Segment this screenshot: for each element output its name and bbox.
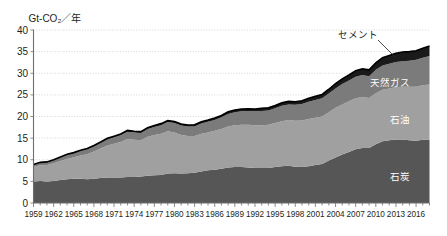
x-tick-label: 2004 [326,210,345,219]
y-axis-title: Gt-CO₂／年 [29,12,82,24]
x-tick-label: 1977 [145,210,164,219]
x-tick-label: 1971 [105,210,124,219]
x-tick-label: 1983 [185,210,204,219]
y-tick-label: 20 [17,111,29,122]
series-label-石炭: 石炭 [390,171,410,182]
series-label-セメント: セメント [338,29,378,40]
x-tick-label: 2013 [387,210,406,219]
x-tick-label: 2001 [306,210,325,219]
y-tick-label: 40 [17,25,29,36]
y-tick-label: 30 [17,68,29,79]
x-tick-label: 1968 [85,210,104,219]
x-tick-label: 1992 [246,210,265,219]
y-tick-label: 0 [22,198,28,209]
y-tick-label: 10 [17,154,29,165]
x-tick-label: 1986 [206,210,225,219]
x-tick-label: 1959 [24,210,43,219]
x-tick-label: 1989 [226,210,245,219]
cement-leader-line [378,40,396,58]
series-label-石油: 石油 [390,114,410,125]
series-label-天然ガス: 天然ガス [370,77,410,88]
y-tick-label: 25 [17,89,29,100]
x-tick-label: 1995 [266,210,285,219]
chart-canvas: 0510152025303540195919621965196819711974… [0,0,447,236]
y-tick-label: 15 [17,133,29,144]
x-tick-label: 2007 [347,210,366,219]
x-tick-label: 1998 [286,210,305,219]
x-tick-label: 2016 [407,210,426,219]
x-tick-label: 1974 [125,210,144,219]
x-tick-label: 1962 [45,210,64,219]
x-tick-label: 1980 [165,210,184,219]
x-tick-label: 1965 [65,210,84,219]
y-tick-label: 35 [17,46,29,57]
y-tick-label: 5 [22,176,28,187]
x-tick-label: 2010 [367,210,386,219]
co2-emissions-stacked-area-chart: 0510152025303540195919621965196819711974… [0,0,447,236]
